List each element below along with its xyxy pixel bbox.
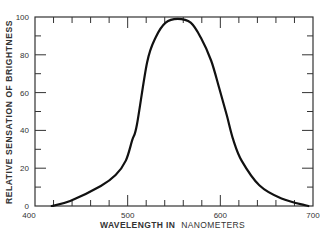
svg-text:400: 400	[22, 211, 36, 220]
brightness-curve	[52, 19, 309, 206]
x-axis-label-bold: WAVELENGTH IN	[100, 220, 175, 230]
y-axis-label: RELATIVE SENSATION OF BRIGHTNESS	[4, 20, 14, 204]
x-axis-label: WAVELENGTH IN NANOMETERS	[100, 220, 245, 230]
svg-text:0: 0	[25, 202, 30, 211]
svg-text:60: 60	[20, 89, 29, 98]
svg-text:600: 600	[214, 211, 228, 220]
svg-text:20: 20	[20, 164, 29, 173]
svg-text:100: 100	[16, 13, 30, 22]
svg-text:500: 500	[121, 211, 135, 220]
svg-text:80: 80	[20, 51, 29, 60]
svg-text:700: 700	[306, 211, 320, 220]
plot-frame	[35, 17, 313, 206]
tick-labels: 020406080100400500600700	[16, 13, 321, 220]
axis-ticks	[35, 17, 313, 206]
x-axis-label-light: NANOMETERS	[181, 220, 245, 230]
luminosity-chart: 020406080100400500600700 RELATIVE SENSAT…	[0, 0, 323, 237]
svg-text:40: 40	[20, 126, 29, 135]
